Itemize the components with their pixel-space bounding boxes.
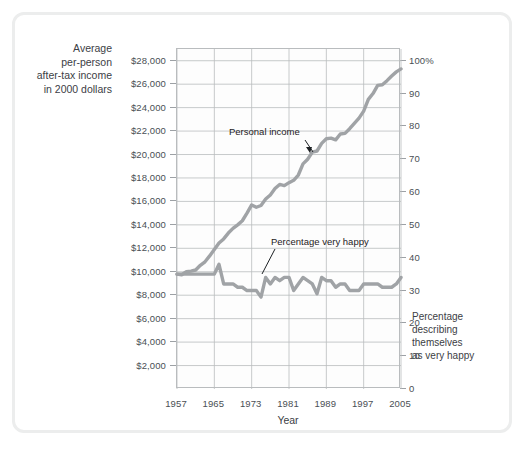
plot-svg [177, 49, 401, 389]
y-axis-left-tick-label: $2,000 [110, 359, 166, 370]
y-axis-right-tick-label: 10 [409, 350, 420, 361]
y-axis-right-tick-label: 50 [409, 218, 420, 229]
plot-area [176, 48, 400, 388]
y-axis-right-tick-label: 40 [409, 251, 420, 262]
x-axis-tick-label: 1973 [240, 398, 262, 409]
y-axis-right-title-line-2: describing [412, 323, 508, 336]
y-axis-right-title-line-4: as very happy [412, 349, 508, 362]
y-axis-right-title: Percentage describing themselves as very… [412, 310, 508, 362]
x-axis-tick-label: 1965 [203, 398, 225, 409]
x-axis-tick-label: 1989 [315, 398, 337, 409]
y-axis-left-tick-label: $22,000 [110, 125, 166, 136]
y-axis-left-tick-label: $8,000 [110, 289, 166, 300]
y-axis-left-tick-label: $10,000 [110, 265, 166, 276]
y-axis-left-tick-label: $12,000 [110, 242, 166, 253]
y-axis-left-title-line-2: per-person [28, 56, 112, 70]
x-axis-tick-label: 1957 [165, 398, 187, 409]
y-axis-left-tick-label: $4,000 [110, 336, 166, 347]
y-axis-right-tick-label: 60 [409, 186, 420, 197]
y-axis-right-tick-label: 100% [409, 54, 434, 65]
y-axis-right-tick-label: 90 [409, 87, 420, 98]
y-axis-left-tick-label: $28,000 [110, 54, 166, 65]
y-axis-right-tick-label: 30 [409, 284, 420, 295]
x-axis-tick-label: 1997 [352, 398, 374, 409]
y-axis-right-tick-label: 0 [409, 383, 414, 394]
y-axis-right-title-line-3: themselves [412, 336, 508, 349]
y-axis-left-title-line-4: in 2000 dollars [28, 83, 112, 97]
x-axis-title: Year [176, 414, 400, 426]
y-axis-left-tick-label: $18,000 [110, 171, 166, 182]
y-axis-left-tick-label: $26,000 [110, 78, 166, 89]
y-axis-left-tick-label: $24,000 [110, 101, 166, 112]
x-axis-tick-label: 1981 [277, 398, 299, 409]
y-axis-right-title-line-1: Percentage [412, 310, 508, 323]
annotation-percentage-very-happy: Percentage very happy [271, 236, 369, 247]
chart-root: Average per-person after-tax income in 2… [0, 0, 529, 452]
y-axis-left-title-line-1: Average [28, 42, 112, 56]
y-axis-right-tick-label: 20 [409, 317, 420, 328]
annotation-personal-income: Personal income [229, 126, 300, 137]
y-axis-left-title: Average per-person after-tax income in 2… [28, 42, 112, 96]
x-axis-tick-label: 2005 [389, 398, 411, 409]
y-axis-right-tick-label: 70 [409, 153, 420, 164]
y-axis-right-tick-label: 80 [409, 120, 420, 131]
y-axis-left-tick-label: $6,000 [110, 312, 166, 323]
y-axis-left-tick-label: $14,000 [110, 218, 166, 229]
y-axis-left-tick-label: $16,000 [110, 195, 166, 206]
y-axis-left-tick-label: $20,000 [110, 148, 166, 159]
y-axis-left-title-line-3: after-tax income [28, 69, 112, 83]
